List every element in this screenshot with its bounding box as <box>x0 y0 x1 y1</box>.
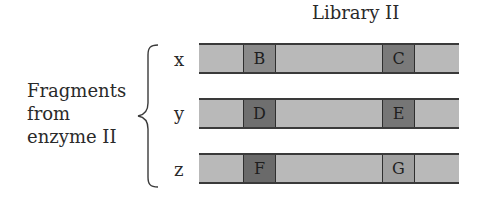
segment-box-e: E <box>382 100 415 127</box>
row-label-y: y <box>174 104 184 124</box>
fragment-bar-y: D E <box>199 98 459 129</box>
group-label: Fragments from enzyme II <box>27 79 126 148</box>
curly-brace-icon <box>136 43 162 189</box>
row-label-z: z <box>174 160 183 180</box>
fragment-bar-x: B C <box>199 43 459 74</box>
segment-box-g: G <box>382 155 415 182</box>
group-label-line-2: from <box>27 102 126 125</box>
row-label-x: x <box>174 50 184 70</box>
group-label-line-3: enzyme II <box>27 125 126 148</box>
segment-box-d: D <box>243 100 276 127</box>
segment-box-b: B <box>243 45 276 72</box>
group-label-line-1: Fragments <box>27 79 126 102</box>
segment-box-f: F <box>243 155 276 182</box>
fragment-bar-z: F G <box>199 153 459 184</box>
diagram-title: Library II <box>312 2 399 23</box>
segment-box-c: C <box>382 45 415 72</box>
